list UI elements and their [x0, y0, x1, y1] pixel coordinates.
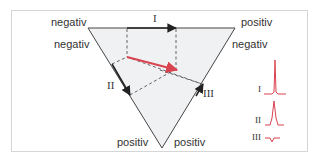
lead-1-label: I [153, 13, 157, 24]
ecg-lead-2-waveform [265, 101, 284, 125]
lead-3-label: III [203, 88, 214, 99]
label-negativ-right: negativ [232, 39, 267, 50]
label-positiv-top-right: positiv [241, 17, 272, 28]
ecg-lead-3-label: III [252, 133, 261, 142]
label-negativ-left: negativ [54, 39, 89, 50]
ecg-lead-1-label: I [258, 85, 261, 94]
label-negativ-top-left: negativ [51, 17, 86, 28]
ecg-lead-2-label: II [255, 116, 261, 125]
label-positiv-bottom-right: positiv [174, 137, 205, 148]
ecg-lead-3-waveform [265, 138, 280, 142]
lead-2-label: II [107, 80, 114, 91]
ecg-waveforms [264, 60, 286, 142]
label-positiv-bottom-left: positiv [117, 137, 148, 148]
ecg-lead-1-waveform [264, 60, 286, 94]
